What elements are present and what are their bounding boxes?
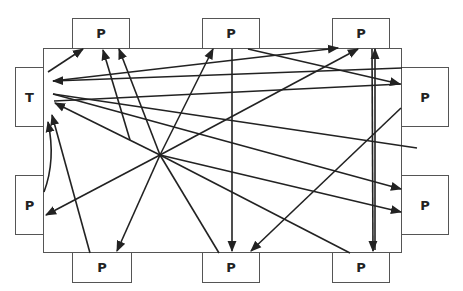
arrow-line [160, 155, 401, 212]
arrow-line [251, 108, 401, 251]
arrow-line [52, 115, 90, 253]
classroom-interaction-diagram: PPPTPPPPPP [0, 0, 463, 291]
arrow-line [46, 155, 160, 215]
arrow-line [48, 49, 83, 72]
arrow-line [117, 155, 160, 251]
arrow-line [372, 49, 373, 251]
arrow-line [119, 49, 160, 155]
arrow-line [55, 103, 160, 155]
arrow-line [160, 155, 350, 253]
arrow-line [53, 94, 417, 148]
arrow-line [53, 94, 401, 189]
curved-arrow [44, 122, 51, 192]
arrow-line [54, 84, 401, 101]
interaction-arrows [0, 0, 463, 291]
arrow-line [103, 50, 130, 140]
